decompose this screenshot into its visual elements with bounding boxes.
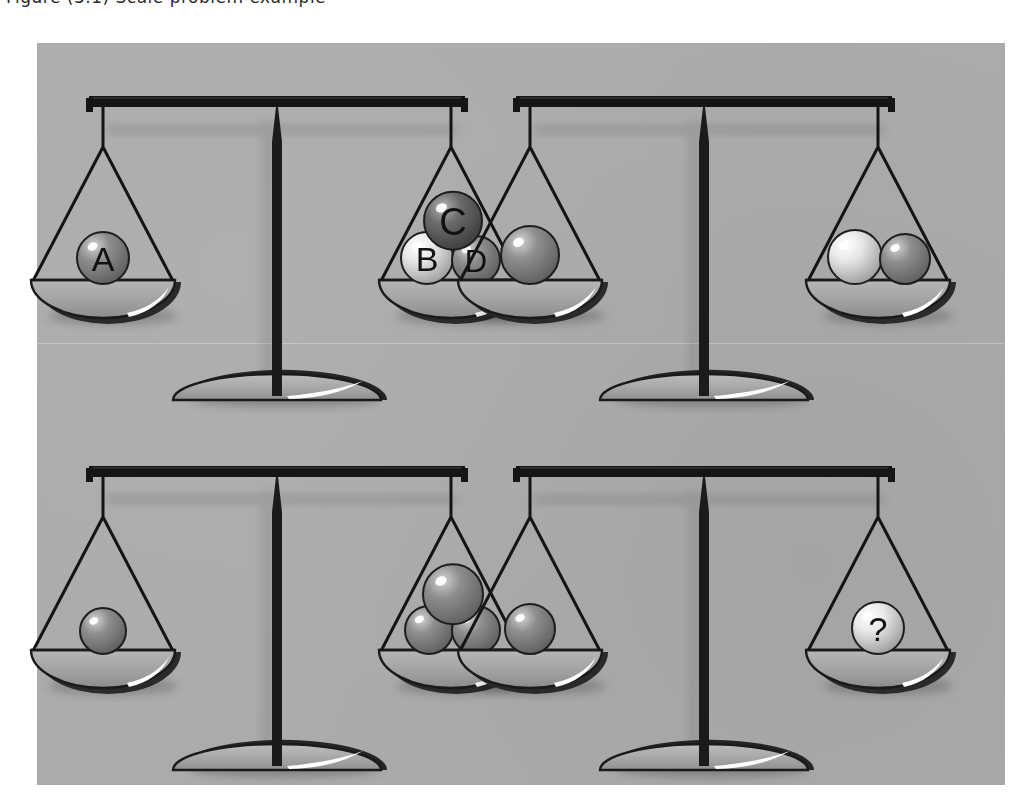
scale-bottom-left[interactable] <box>42 448 512 808</box>
ball[interactable]: ? <box>852 602 904 654</box>
ball-group <box>505 604 555 654</box>
ball[interactable] <box>501 226 559 284</box>
ball-sphere <box>501 226 559 284</box>
scale-post <box>699 468 709 766</box>
ball-sphere <box>880 234 930 284</box>
ball-group: ? <box>852 602 904 654</box>
scale-top-right[interactable] <box>469 78 939 438</box>
ball[interactable] <box>828 230 882 284</box>
ball-sphere <box>828 230 882 284</box>
ball-sphere <box>80 608 126 654</box>
left-pan[interactable] <box>458 106 608 325</box>
ball-group <box>828 230 930 284</box>
ball[interactable] <box>505 604 555 654</box>
ball-label-unknown: ? <box>869 610 888 648</box>
scale-post <box>699 98 709 396</box>
scale-post <box>272 98 282 396</box>
left-pan[interactable] <box>31 106 181 325</box>
figure-stage: Figure (3.1) Scale problem example ABDC? <box>0 0 1034 812</box>
ball-label-b: B <box>416 240 439 278</box>
ball-group: A <box>77 232 129 284</box>
left-pan[interactable] <box>31 476 181 695</box>
ball[interactable] <box>80 608 126 654</box>
scanned-page-panel: ABDC? <box>37 43 1005 785</box>
ball-group <box>501 226 559 284</box>
ball-label-a: A <box>92 240 115 278</box>
left-pan[interactable] <box>458 476 608 695</box>
scale-post <box>272 468 282 766</box>
cropped-caption-strip: Figure (3.1) Scale problem example <box>0 0 1034 14</box>
cropped-caption-text: Figure (3.1) Scale problem example <box>6 0 326 7</box>
ball-sphere <box>505 604 555 654</box>
scale-top-left[interactable]: ABDC <box>42 78 512 438</box>
ball[interactable]: A <box>77 232 129 284</box>
ball-group <box>80 608 126 654</box>
ball-label-c: C <box>439 201 466 243</box>
ball[interactable] <box>880 234 930 284</box>
right-pan[interactable] <box>806 476 956 695</box>
scale-bottom-right[interactable]: ? <box>469 448 939 808</box>
right-pan[interactable] <box>806 106 956 325</box>
